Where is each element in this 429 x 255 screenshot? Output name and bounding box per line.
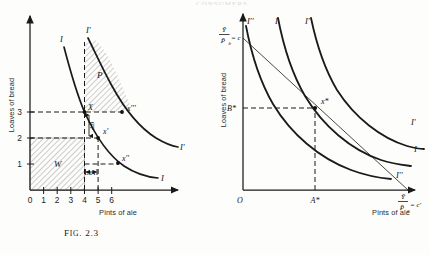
point-X-marker: [83, 110, 87, 114]
x-intercept-numerator: Ȳ: [401, 193, 406, 201]
point-label-x-double-prime: x'': [121, 154, 129, 163]
caption-ig-23: IG: [70, 229, 79, 238]
point-xtrplprime-marker: [120, 110, 124, 114]
x-tick-label-5: 5: [96, 195, 101, 205]
y-tick-label-3: 3: [17, 107, 22, 117]
x-tick-label-4: 4: [82, 195, 87, 205]
x-intercept-denominator: P̄: [399, 204, 405, 212]
optimum-point-label: x*: [320, 97, 329, 106]
point-label-x-triple-prime: x''': [126, 104, 136, 113]
curve-label-I-top: I: [59, 34, 64, 44]
curve-label-I-double-prime-right: I'': [395, 170, 403, 180]
point-label-x-prime: x': [102, 127, 109, 136]
y-intercept-fraction-label: Ȳ P̄ b = c: [219, 26, 241, 46]
y-axis-title-fig23: Loaves of bread: [7, 78, 16, 133]
figures-page: CONSUMERS: [0, 0, 429, 255]
optimum-x-label: A*: [310, 196, 320, 205]
curve-label-I-prime-top: I': [304, 16, 310, 26]
x-axis-title-fig24: Pints of ale: [372, 208, 410, 217]
y-tick-label-1: 1: [17, 159, 22, 169]
figure-2-4: Loaves of bread Pints of ale Ȳ P̄ b = c…: [215, 0, 429, 255]
caption-num-23: . 2.3: [79, 228, 99, 238]
y-axis-title-fig24: Loaves of bread: [219, 73, 228, 128]
point-xstar-marker: [313, 106, 317, 110]
curve-label-I-prime-right: I': [410, 117, 416, 127]
budget-line-fig24: [243, 38, 408, 190]
x-tick-label-1: 1: [41, 195, 46, 205]
y-tick-label-2: 2: [17, 133, 22, 143]
region-label-P: P: [96, 70, 103, 80]
curve-I-fig24: [278, 18, 411, 166]
x-tick-label-0: 0: [28, 195, 33, 205]
figure-2-3: Loaves of bread Pints of ale 3 2 1 0 1 2…: [0, 0, 215, 255]
curve-label-Iprime-right: I': [179, 142, 185, 152]
figure-2-4-svg: Loaves of bread Pints of ale Ȳ P̄ b = c…: [215, 0, 429, 226]
x-tick-label-2: 2: [55, 195, 60, 205]
curve-label-I-double-prime-top: I'': [246, 16, 254, 26]
curve-label-Iprime-top: I': [85, 25, 91, 35]
y-intercept-denominator: P̄: [220, 37, 226, 45]
point-xdblprime-marker: [116, 161, 120, 165]
figure-2-3-svg: Loaves of bread Pints of ale 3 2 1 0 1 2…: [0, 0, 215, 226]
x-tick-label-6: 6: [109, 195, 114, 205]
y-intercept-equals: = c: [231, 34, 241, 42]
curve-I-prime-fig24: [311, 18, 424, 149]
y-intercept-numerator: Ȳ: [222, 26, 227, 34]
optimum-y-label: B*: [227, 104, 236, 113]
delta-B-label: ΔB: [88, 121, 96, 131]
figure-2-3-caption: FIG. 2.3: [64, 228, 99, 238]
curve-label-I-right: I: [160, 173, 165, 183]
x-tick-label-3: 3: [68, 195, 73, 205]
delta-A-label: ΔA: [86, 169, 96, 177]
origin-label-fig24: O: [237, 196, 243, 205]
point-xprime-marker: [96, 136, 100, 140]
x-axis-title-fig23: Pints of ale: [99, 208, 137, 217]
x-intercept-equals: = c': [410, 201, 422, 209]
